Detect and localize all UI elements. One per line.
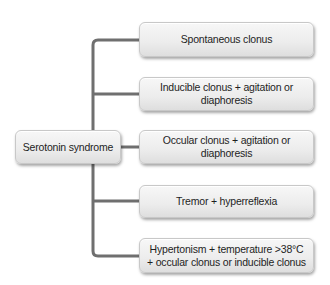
child-node-label: Inducible clonus + agitation or diaphore…: [146, 81, 307, 107]
child-node-label: Tremor + hyperreflexia: [176, 195, 277, 208]
child-node-occular-clonus: Occular clonus + agitation or diaphoresi…: [139, 130, 314, 164]
child-node-label: Hypertonism + temperature >38°C + occula…: [146, 243, 307, 269]
serotonin-syndrome-diagram: Serotonin syndrome Spontaneous clonus In…: [0, 0, 330, 285]
child-node-label: Occular clonus + agitation or diaphoresi…: [146, 134, 307, 160]
child-node-tremor-hyperreflexia: Tremor + hyperreflexia: [139, 185, 314, 218]
child-node-inducible-clonus: Inducible clonus + agitation or diaphore…: [139, 77, 314, 111]
root-node-label: Serotonin syndrome: [23, 141, 113, 154]
root-node-serotonin-syndrome: Serotonin syndrome: [15, 130, 121, 164]
child-node-hypertonism: Hypertonism + temperature >38°C + occula…: [139, 238, 314, 273]
child-node-label: Spontaneous clonus: [181, 33, 273, 46]
child-node-spontaneous-clonus: Spontaneous clonus: [139, 22, 314, 57]
